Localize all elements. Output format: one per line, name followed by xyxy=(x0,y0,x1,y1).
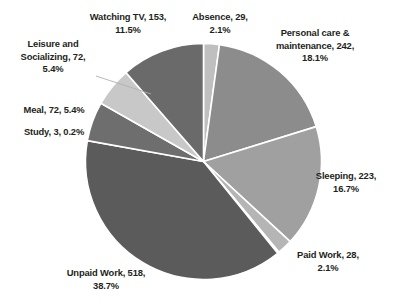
pie-label-personal-care: Personal care & maintenance, 242, 18.1% xyxy=(262,27,368,65)
pie-label-absence: Absence, 29, 2.1% xyxy=(183,11,257,36)
pie-label-meal: Meal, 72, 5.4% xyxy=(8,104,100,117)
pie-chart-figure: Watching TV, 153, 11.5% Absence, 29, 2.1… xyxy=(0,0,398,308)
pie-label-study: Study, 3, 0.2% xyxy=(8,126,100,139)
pie-label-paid-work: Paid Work, 28, 2.1% xyxy=(286,249,370,274)
pie-label-watching-tv: Watching TV, 153, 11.5% xyxy=(82,11,174,36)
pie-label-unpaid-work: Unpaid Work, 518, 38.7% xyxy=(56,267,156,292)
pie-label-sleeping: Sleeping, 223, 16.7% xyxy=(304,170,388,195)
pie-slice-group xyxy=(86,44,322,280)
figure-caption-clipped xyxy=(0,300,398,308)
pie-label-leisure-and-socializing: Leisure and Socializing, 72, 5.4% xyxy=(12,38,94,76)
